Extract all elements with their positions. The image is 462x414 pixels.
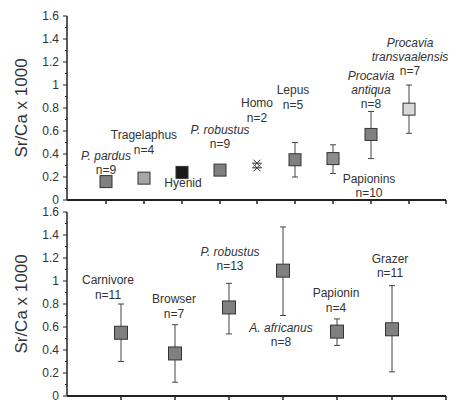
y-tick-label: 1 <box>52 274 59 288</box>
y-tick-label: 1.4 <box>42 228 59 242</box>
annotation-label: Hyenid <box>164 176 201 190</box>
square-marker-icon <box>331 325 344 338</box>
y-tick-label: 0 <box>52 389 59 403</box>
annotation-label: n=7 <box>164 307 185 321</box>
square-marker-icon <box>115 326 128 339</box>
y-tick-label: 0.6 <box>42 320 59 334</box>
y-axis-title: Sr/Ca x 1000 <box>12 254 31 353</box>
annotation-label: n=8 <box>361 97 382 111</box>
y-tick-label: 0.6 <box>42 124 59 138</box>
annotation-label: Lepus <box>277 83 310 97</box>
annotation-label: n=4 <box>326 301 347 315</box>
data-point-a-africanus <box>277 227 290 316</box>
data-point-homo <box>252 160 262 172</box>
annotation-label: n=9 <box>96 163 117 177</box>
y-tick-label: 0.2 <box>42 366 59 380</box>
data-point-papionin <box>331 319 344 345</box>
annotation-label: Procavia <box>387 36 434 50</box>
y-tick-label: 1 <box>52 78 59 92</box>
data-point-carnivore <box>115 304 128 362</box>
annotation-label: n=13 <box>216 259 243 273</box>
y-tick-label: 1.2 <box>42 55 59 69</box>
square-marker-icon <box>386 323 399 336</box>
annotation-label: n=7 <box>400 64 421 78</box>
data-point-papionins <box>327 145 339 174</box>
annotation-label: n=8 <box>271 335 292 349</box>
annotation-label: Browser <box>152 292 196 306</box>
data-point-browser <box>169 325 182 383</box>
square-marker-icon <box>277 264 290 277</box>
annotation-label: n=10 <box>355 186 382 200</box>
y-tick-label: 1.6 <box>42 9 59 23</box>
annotation-label: n=2 <box>247 111 268 125</box>
square-marker-icon <box>138 172 150 184</box>
square-marker-icon <box>289 154 301 166</box>
square-marker-icon <box>327 153 339 165</box>
annotation-label: Procavia <box>348 69 395 83</box>
square-marker-icon <box>403 103 415 115</box>
y-tick-label: 1.6 <box>42 205 59 219</box>
annotation-label: Tragelaphus <box>111 128 177 142</box>
annotation-label: P. robustus <box>190 123 249 137</box>
sr-ca-chart: 00.20.40.60.811.21.41.6Sr/Ca x 1000P. pa… <box>0 0 462 414</box>
square-marker-icon <box>365 128 377 140</box>
annotation-label: Carnivore <box>82 273 134 287</box>
annotation-label: Papionin <box>313 286 360 300</box>
annotation-label: n=4 <box>134 143 155 157</box>
annotation-label: n=11 <box>377 266 403 280</box>
annotation-label: antiqua <box>351 83 391 97</box>
annotation-label: P. pardus <box>81 149 131 163</box>
top-chart-panel: 00.20.40.60.811.21.41.6Sr/Ca x 1000P. pa… <box>12 9 448 207</box>
annotation-label: Grazer <box>372 252 409 266</box>
data-point-p-pardus <box>100 176 112 188</box>
annotation-label: A. africanus <box>248 321 312 335</box>
y-tick-label: 0.4 <box>42 147 59 161</box>
bottom-chart-panel: 00.20.40.60.811.21.41.6Sr/Ca x 1000Carni… <box>12 205 446 403</box>
square-marker-icon <box>100 176 112 188</box>
annotation-label: n=9 <box>210 137 231 151</box>
y-axis-title: Sr/Ca x 1000 <box>12 58 31 157</box>
square-marker-icon <box>169 347 182 360</box>
annotation-label: P. robustus <box>200 245 259 259</box>
y-tick-label: 1.2 <box>42 251 59 265</box>
annotation-label: Homo <box>241 96 273 110</box>
annotation-label: Papionins <box>343 172 396 186</box>
data-point-grazer <box>386 286 399 372</box>
data-point-procavia-transvaalensis <box>403 85 415 133</box>
square-marker-icon <box>214 164 226 176</box>
y-tick-label: 0.8 <box>42 101 59 115</box>
annotation-label: n=5 <box>283 98 304 112</box>
annotation-label: transvaalensis <box>372 50 449 64</box>
data-point-lepus <box>289 143 301 178</box>
data-point-p-robustus <box>214 164 226 176</box>
y-tick-label: 1.4 <box>42 32 59 46</box>
data-point-tragelaphus <box>138 172 150 184</box>
y-tick-label: 0.4 <box>42 343 59 357</box>
annotation-label: n=11 <box>95 288 121 302</box>
data-point-procavia-antiqua <box>365 111 377 158</box>
y-tick-label: 0.8 <box>42 297 59 311</box>
square-marker-icon <box>223 301 236 314</box>
y-tick-label: 0.2 <box>42 170 59 184</box>
data-point-p-robustus <box>223 283 236 334</box>
